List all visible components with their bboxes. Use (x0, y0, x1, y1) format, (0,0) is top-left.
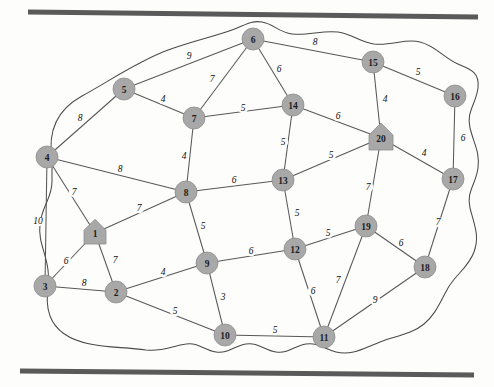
horizontal-rules (20, 12, 478, 375)
node-label: 16 (450, 92, 460, 102)
edge-weight-label: 8 (82, 278, 87, 288)
edge-weight-label: 3 (220, 292, 226, 302)
graph-node-5[interactable]: 5 (113, 78, 135, 100)
graph-node-19[interactable]: 19 (355, 215, 377, 237)
edge-weight-label: 6 (311, 286, 316, 296)
graph-node-10[interactable]: 10 (214, 324, 236, 346)
node-label: 14 (288, 101, 298, 111)
node-label: 10 (220, 331, 230, 341)
edge-weight-label: 6 (336, 111, 341, 121)
edge-weight-label: 4 (383, 94, 388, 104)
edge-weight-label: 10 (33, 216, 43, 226)
edge-weight-label: 6 (399, 238, 404, 248)
node-label: 2 (114, 288, 119, 298)
edge-weight-label: 6 (277, 64, 282, 74)
graph-edge (373, 62, 455, 96)
graph-edge (253, 39, 293, 105)
graph-node-16[interactable]: 16 (444, 85, 466, 107)
edge-weight-label: 4 (182, 151, 187, 161)
graph-node-12[interactable]: 12 (284, 238, 306, 260)
edge-weight-label: 8 (118, 164, 123, 174)
graph-node-9[interactable]: 9 (196, 252, 218, 274)
graph-node-1[interactable]: 1 (84, 219, 106, 244)
graph-node-2[interactable]: 2 (105, 281, 127, 303)
edge-weight-label: 4 (161, 94, 166, 104)
top-rule (28, 12, 478, 17)
edge-weight-label: 9 (187, 51, 192, 61)
node-label: 12 (290, 245, 300, 255)
node-label: 11 (320, 333, 329, 343)
node-label: 5 (122, 85, 127, 95)
edge-weight-label: 5 (329, 150, 334, 160)
edge-weight-label: 6 (64, 256, 69, 266)
edge-weight-label: 4 (161, 267, 166, 277)
graph-node-14[interactable]: 14 (282, 94, 304, 116)
node-label: 15 (368, 58, 378, 68)
edge-weight-label: 5 (241, 103, 246, 113)
graph-node-3[interactable]: 3 (34, 275, 56, 297)
edge-weight-label: 4 (422, 148, 427, 158)
graph-node-4[interactable]: 4 (36, 146, 58, 168)
region-boundary-outline (40, 22, 479, 353)
node-label: 4 (45, 153, 50, 163)
graph-node-11[interactable]: 11 (313, 326, 335, 348)
graph-nodes: 1234567891011121314151617181920 (34, 28, 466, 348)
graph-node-17[interactable]: 17 (442, 168, 464, 190)
graph-edge (225, 335, 324, 337)
graph-node-7[interactable]: 7 (183, 107, 205, 129)
graph-node-6[interactable]: 6 (242, 28, 264, 50)
node-label: 8 (184, 188, 189, 198)
bottom-rule (20, 371, 474, 375)
graph-node-15[interactable]: 15 (362, 51, 384, 73)
edge-weight-label: 5 (295, 208, 300, 218)
graph-edge (293, 105, 381, 138)
edge-weight-label: 9 (373, 295, 378, 305)
node-label: 17 (448, 175, 458, 185)
node-label: 18 (420, 263, 430, 273)
edge-weight-label: 8 (313, 37, 318, 47)
graph-node-13[interactable]: 13 (272, 169, 294, 191)
graph-canvas: 98764855646445586710775557666748367955 1… (0, 0, 494, 387)
edge-weight-label: 5 (201, 221, 206, 231)
edge-weight-label: 5 (416, 67, 421, 77)
graph-node-18[interactable]: 18 (414, 256, 436, 278)
graph-edge (124, 39, 253, 89)
edge-weight-label: 8 (78, 113, 83, 123)
edge-weight-label: 6 (249, 246, 254, 256)
graph-figure: 98764855646445586710775557666748367955 1… (0, 0, 494, 387)
graph-edge (324, 226, 366, 337)
node-label: 1 (93, 229, 98, 239)
edge-weight-label: 6 (232, 175, 237, 185)
node-label: 3 (43, 282, 48, 292)
edge-weight-label: 5 (173, 306, 178, 316)
edge-weight-label: 5 (326, 228, 331, 238)
graph-edge (453, 96, 455, 179)
graph-edge (47, 157, 186, 192)
node-label: 13 (278, 176, 288, 186)
graph-edge (47, 89, 124, 157)
graph-edge (45, 157, 47, 286)
edge-weight-label: 5 (281, 137, 286, 147)
node-label: 9 (205, 259, 210, 269)
node-label: 6 (251, 35, 256, 45)
graph-node-8[interactable]: 8 (175, 181, 197, 203)
node-label: 19 (361, 222, 371, 232)
graph-node-20[interactable]: 20 (369, 123, 393, 150)
node-label: 20 (376, 134, 386, 144)
edge-weight-label: 6 (461, 133, 466, 143)
node-label: 7 (192, 114, 197, 124)
edge-weight-label: 5 (273, 325, 278, 335)
